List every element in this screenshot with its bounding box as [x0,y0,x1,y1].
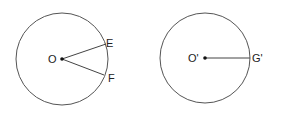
circle-left-group: O E F [16,13,115,105]
circle-right-group: O' G' [160,13,263,103]
center-dot-o [60,57,64,61]
label-f: F [108,72,115,84]
label-g-prime: G' [252,52,263,64]
label-e: E [106,37,113,49]
radius-oe [62,44,106,59]
radius-of [62,59,104,75]
label-o-prime: O' [188,52,199,64]
geometry-diagram: O E F O' G' [0,0,282,114]
center-dot-o-prime [203,56,207,60]
label-o: O [48,53,57,65]
